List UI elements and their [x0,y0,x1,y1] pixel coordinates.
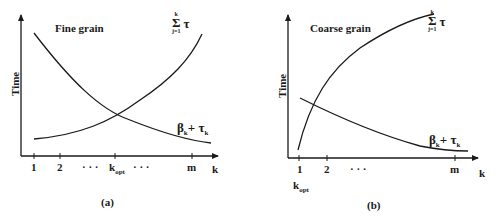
panel-b-caption: (b) [367,200,380,211]
panel-a-beta-label: βk+ τk [177,121,208,134]
panel-a-tick-2: 2 [57,162,63,173]
panel-a-x-axis-label: k [212,164,218,175]
panel-b-sum-label: k Σ j=1 τ [428,10,446,32]
panel-a-tick-kopt: kopt [109,162,125,173]
panel-b-tick-ellipsis: · · · [350,164,367,175]
summation-icon: k Σ j=1 [172,12,181,34]
panel-b-beta-label: βk+ τk [429,133,460,146]
panel-b-tick-m: m [450,164,459,175]
panel-a-tick-ellipsis-2: · · · [133,162,150,173]
panel-b-cumulative-curve [298,14,434,150]
panel-a-title: Fine grain [55,23,104,34]
panel-a-tick-ellipsis-1: · · · [82,162,99,173]
kopt-sub: opt [115,168,125,176]
panel-a-caption: (a) [101,197,114,208]
panel-b-kopt-label: kopt [293,180,309,191]
panel-a-y-axis-label: Time [10,72,21,96]
panel-a-sum-label: k Σ j=1 τ [172,12,190,34]
panel-b-y-axis-label: Time [277,74,288,98]
panel-b-tick-2: 2 [324,164,330,175]
panel-b-title: Coarse grain [310,23,371,34]
panel-b-tick-1: 1 [297,164,303,175]
panel-a-tick-m: m [187,162,196,173]
panel-a-tick-1: 1 [31,162,37,173]
panel-a-plot [21,15,218,159]
summation-icon: k Σ j=1 [428,10,437,32]
panel-b-x-axis-label: k [479,168,485,179]
